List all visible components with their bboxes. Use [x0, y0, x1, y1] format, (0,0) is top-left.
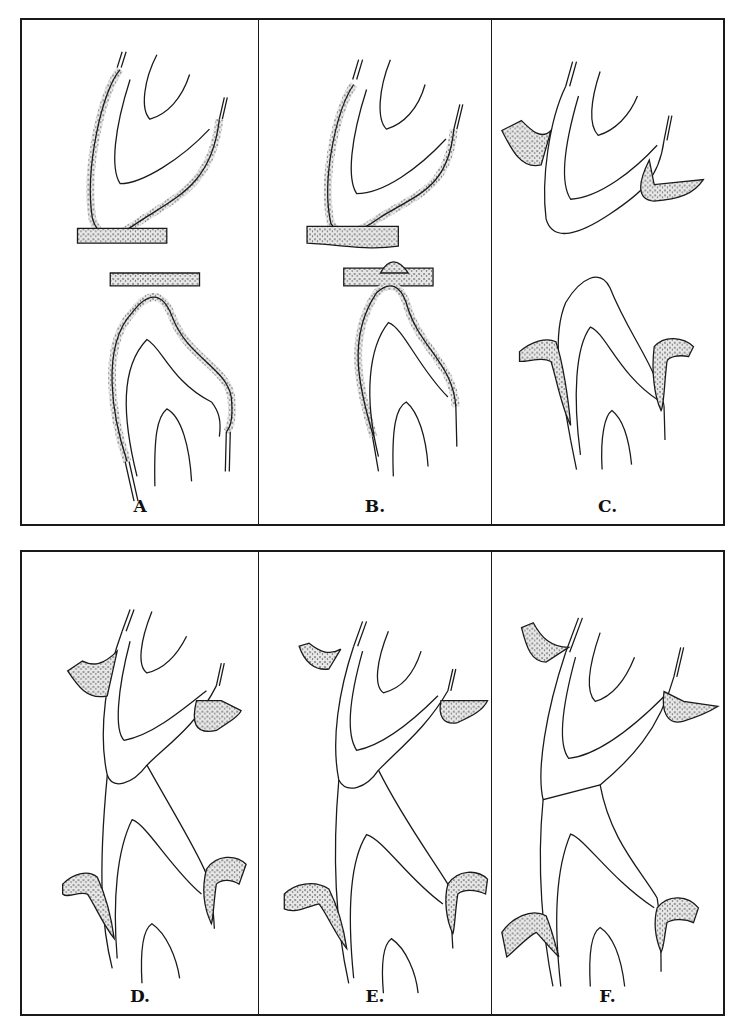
panel-label-f: F.	[492, 986, 723, 1006]
tooth-diagram-b	[259, 20, 491, 524]
panel-e: E.	[258, 552, 491, 1014]
panel-label-d: D.	[22, 986, 258, 1006]
panel-c: C.	[491, 20, 723, 524]
figure-row-top: A B.	[20, 18, 725, 526]
panel-f: F.	[491, 552, 723, 1014]
figure-row-bottom: D. E.	[20, 550, 725, 1016]
tooth-diagram-d	[22, 552, 258, 1014]
panel-label-c: C.	[492, 496, 723, 516]
tooth-diagram-a	[22, 20, 258, 524]
panel-label-e: E.	[259, 986, 491, 1006]
panel-d: D.	[22, 552, 258, 1014]
tooth-diagram-c	[492, 20, 723, 524]
tooth-diagram-e	[259, 552, 491, 1014]
panel-label-a: A	[22, 496, 258, 516]
panel-a: A	[22, 20, 258, 524]
tooth-diagram-f	[492, 552, 723, 1014]
panel-b: B.	[258, 20, 491, 524]
panel-label-b: B.	[259, 496, 491, 516]
